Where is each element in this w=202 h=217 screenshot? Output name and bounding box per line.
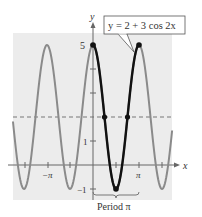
tick-label-pi: π <box>136 170 141 180</box>
tick-label-neg-pi: −π <box>42 170 53 180</box>
period-label: Period π <box>97 201 131 212</box>
cosine-chart: x y −π π 5 1 −1 Period π y = 2 <box>0 0 202 217</box>
x-axis-arrow-icon <box>174 163 180 168</box>
point-mid-2 <box>125 114 130 119</box>
point-mid-1 <box>102 114 107 119</box>
y-axis-label: y <box>89 11 95 22</box>
y-axis-arrow-icon <box>91 22 96 28</box>
x-axis-label: x <box>182 160 188 171</box>
tick-label-y5: 5 <box>80 40 85 51</box>
equation-label: y = 2 + 3 cos 2x <box>108 20 177 31</box>
tick-label-yneg1: −1 <box>77 185 87 195</box>
point-max-pi <box>136 42 142 48</box>
tick-label-y1: 1 <box>83 137 88 147</box>
point-max-0 <box>90 42 96 48</box>
point-min <box>113 186 119 192</box>
